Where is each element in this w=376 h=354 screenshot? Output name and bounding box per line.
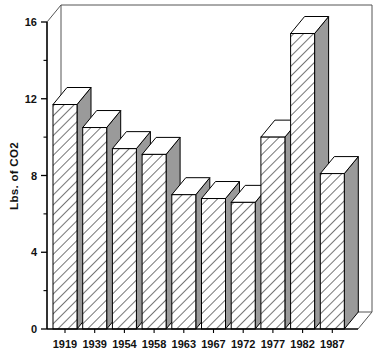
y-axis-tick-labels: 0481216 [25, 16, 38, 335]
y-tick-label-0: 0 [31, 323, 37, 335]
x-tick-label-1963: 1963 [172, 338, 196, 350]
y-axis-ticks [41, 22, 47, 329]
x-tick-label-1972: 1972 [231, 338, 255, 350]
y-tick-label-4: 4 [31, 246, 38, 258]
chart-canvas: 0481216 19191939195419581963196719721977… [0, 0, 376, 354]
y-tick-label-8: 8 [31, 170, 37, 182]
bar-chart: 0481216 19191939195419581963196719721977… [0, 0, 376, 354]
x-tick-label-1967: 1967 [201, 338, 225, 350]
x-tick-label-1954: 1954 [112, 338, 137, 350]
y-axis-label: Lbs. of CO2 [8, 142, 20, 210]
x-tick-label-1977: 1977 [261, 338, 285, 350]
y-tick-label-16: 16 [25, 16, 37, 28]
bar-1987 [320, 157, 358, 329]
x-tick-label-1982: 1982 [290, 338, 314, 350]
y-tick-label-12: 12 [25, 93, 37, 105]
x-tick-label-1939: 1939 [82, 338, 106, 350]
x-tick-label-1958: 1958 [142, 338, 166, 350]
x-axis-tick-labels: 1919193919541958196319671972197719821987 [53, 329, 345, 350]
x-tick-label-1919: 1919 [53, 338, 77, 350]
x-tick-label-1987: 1987 [320, 338, 344, 350]
